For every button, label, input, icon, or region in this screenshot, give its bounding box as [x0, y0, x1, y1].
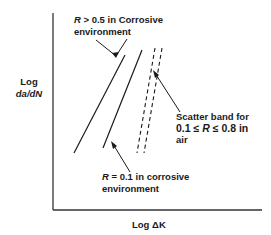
- scatter-band-right: [144, 48, 162, 153]
- curve-r-low-corrosive: [103, 50, 142, 148]
- label-scatter-band: Scatter band for 0.1 ≤ R ≤ 0.8 in air: [176, 111, 249, 146]
- y-axis-label: Log da/dN: [14, 76, 44, 99]
- y-axis-label-line2: da/dN: [14, 88, 44, 100]
- label-r-high-corrosive: R > 0.5 in Corrosive environment: [74, 14, 163, 37]
- arrowhead-r-high: [112, 52, 119, 58]
- curve-r-high-corrosive: [74, 55, 125, 153]
- x-axis-label: Log ΔK: [132, 219, 166, 231]
- arrowhead-r-low: [111, 141, 117, 149]
- label-r-low-corrosive: R = 0.1 in corrosive environment: [102, 171, 189, 194]
- arrow-r-high: [96, 39, 127, 56]
- arrow-scatter-band: [155, 73, 180, 112]
- arrow-r-low: [113, 144, 130, 172]
- scatter-band-left: [137, 48, 155, 153]
- y-axis-label-line1: Log: [14, 76, 44, 88]
